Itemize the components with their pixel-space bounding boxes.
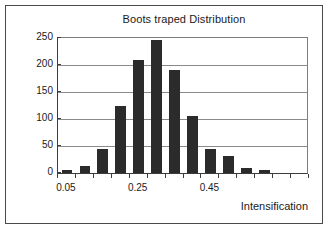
x-axis-title: Intensification bbox=[241, 200, 308, 212]
bar bbox=[187, 116, 198, 173]
x-tickmark bbox=[111, 174, 112, 178]
bar bbox=[80, 166, 91, 173]
x-tick-label: 0.25 bbox=[118, 182, 158, 193]
y-tick-label: 250 bbox=[27, 32, 53, 42]
y-tick-label: 150 bbox=[27, 86, 53, 96]
x-tickmark bbox=[236, 174, 237, 178]
plot-area bbox=[57, 37, 308, 174]
bar bbox=[115, 106, 126, 174]
x-tickmark bbox=[308, 174, 309, 178]
bar bbox=[223, 156, 234, 173]
bar bbox=[133, 60, 144, 173]
bar bbox=[205, 149, 216, 173]
bar bbox=[151, 40, 162, 173]
y-tick-label: 200 bbox=[27, 59, 53, 69]
y-tickmark bbox=[57, 91, 61, 92]
x-tickmark bbox=[200, 174, 201, 178]
x-tickmark bbox=[75, 174, 76, 178]
x-tickmark bbox=[218, 174, 219, 178]
y-tickmark bbox=[57, 172, 61, 173]
y-tick-label: 100 bbox=[27, 113, 53, 123]
y-tickmark bbox=[57, 118, 61, 119]
x-tick-label: 0.45 bbox=[189, 182, 229, 193]
x-tickmark bbox=[290, 174, 291, 178]
y-tickmark bbox=[57, 64, 61, 65]
bar bbox=[97, 149, 108, 173]
chart-title: Boots traped Distribution bbox=[60, 13, 308, 25]
y-tick-label: 0 bbox=[27, 167, 53, 177]
chart-page: Boots traped Distribution 05010015020025… bbox=[0, 0, 328, 229]
y-axis-tick-labels: 050100150200250 bbox=[25, 37, 53, 174]
bar bbox=[169, 70, 180, 173]
x-tickmark bbox=[254, 174, 255, 178]
bar bbox=[259, 170, 270, 173]
y-tick-label: 50 bbox=[27, 140, 53, 150]
x-tickmark bbox=[93, 174, 94, 178]
x-tickmark bbox=[129, 174, 130, 178]
x-tickmark bbox=[183, 174, 184, 178]
x-tickmark bbox=[165, 174, 166, 178]
x-tickmark bbox=[57, 174, 58, 178]
x-tickmark bbox=[147, 174, 148, 178]
x-tickmark bbox=[272, 174, 273, 178]
histogram-chart: Boots traped Distribution 05010015020025… bbox=[0, 0, 328, 229]
y-tickmark bbox=[57, 145, 61, 146]
bar bbox=[62, 170, 73, 173]
bar-series bbox=[58, 38, 307, 173]
x-tick-label: 0.05 bbox=[46, 182, 86, 193]
y-tickmark bbox=[57, 37, 61, 38]
bar bbox=[241, 168, 252, 173]
